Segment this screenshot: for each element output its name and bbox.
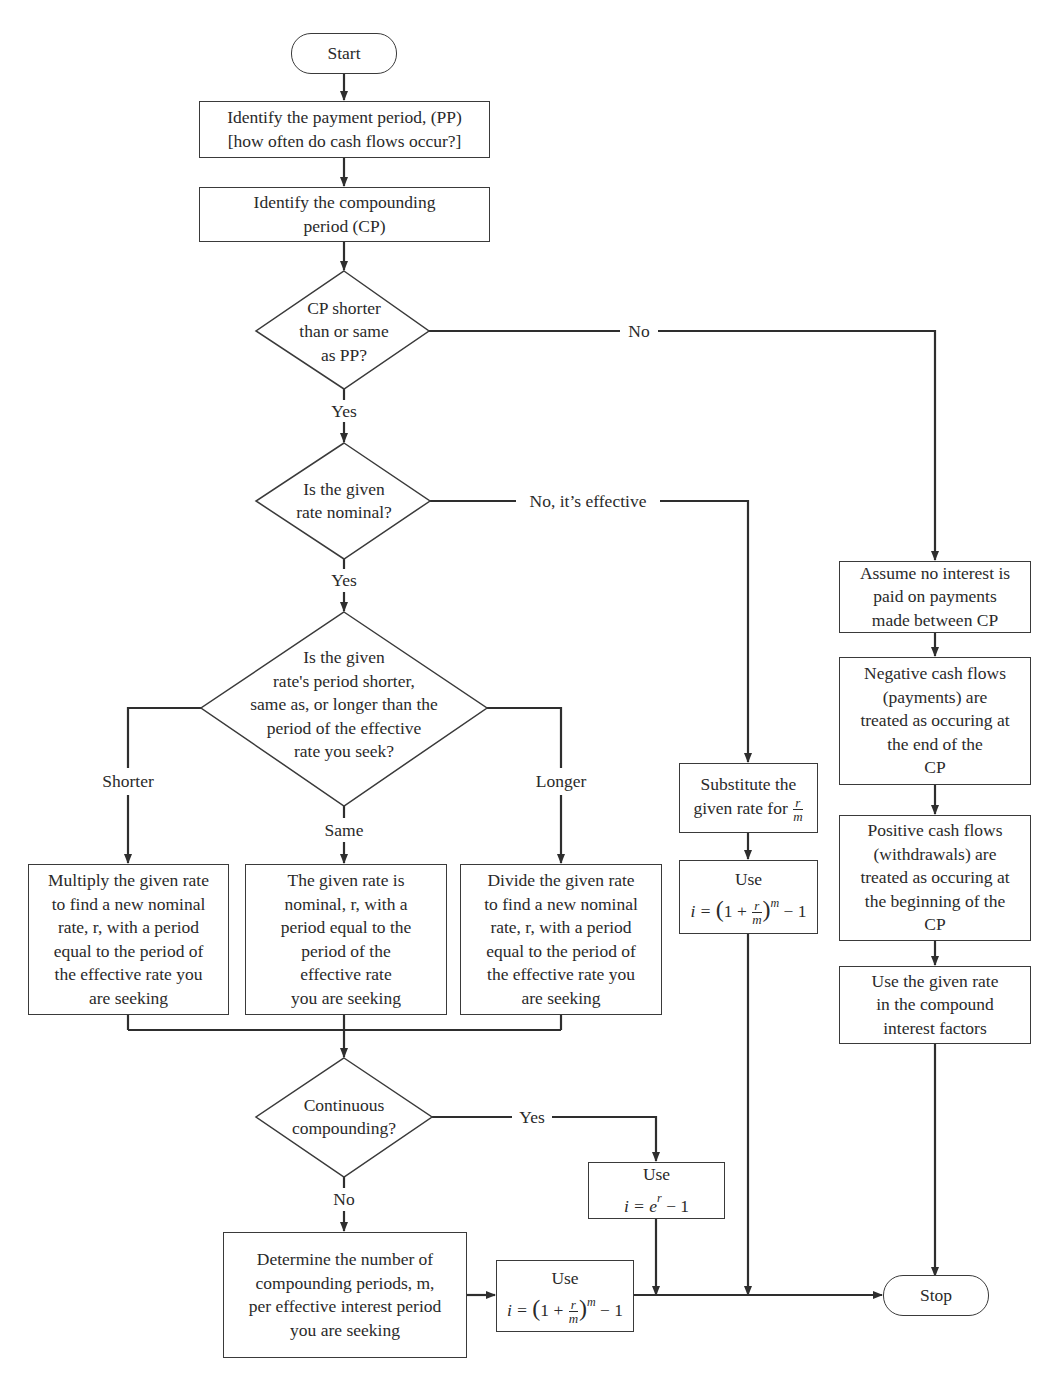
edge-label-nominal-yes: Yes	[328, 570, 359, 590]
text-line: The given rate is	[287, 869, 404, 893]
text-line: compounding periods, m,	[256, 1272, 435, 1296]
step-assume-no-interest: Assume no interest is paid on payments m…	[839, 561, 1031, 633]
text-line: Identify the compounding	[254, 191, 436, 215]
formula-tail: − 1	[779, 901, 806, 921]
decision-cp-vs-pp: CP shorter than or same as PP?	[266, 296, 422, 368]
formula-lhs: i = e	[624, 1196, 657, 1216]
edge-label-nominal-no: No, it’s effective	[527, 491, 650, 511]
text-line: in the compound	[876, 993, 994, 1017]
text-line: Negative cash flows	[864, 662, 1006, 686]
text-line: period of the effective	[267, 717, 422, 741]
text-line: Continuous	[304, 1094, 385, 1118]
decision-rate-nominal: Is the given rate nominal?	[266, 476, 422, 526]
edge-label-same: Same	[322, 820, 367, 840]
text-line: period of the	[301, 940, 390, 964]
text-line: Use the given rate	[872, 970, 999, 994]
text-line: CP	[924, 913, 945, 937]
text-line: rate nominal?	[296, 501, 392, 525]
formula-tail: − 1	[662, 1196, 689, 1216]
text-line: rate, r, with a period	[490, 916, 631, 940]
step-use-effective-formula: Use i = (1 + rm)m − 1	[679, 860, 818, 934]
step-use-continuous-formula: Use i = er − 1	[588, 1162, 725, 1219]
edge-label-longer: Longer	[533, 771, 590, 791]
text-line: Substitute the	[701, 773, 797, 797]
text-line: nominal, r, with a	[284, 893, 407, 917]
step-identify-compounding-period: Identify the compounding period (CP)	[199, 187, 490, 242]
step-positive-cash-flows: Positive cash flows (withdrawals) are tr…	[839, 815, 1031, 941]
text-line: the end of the	[887, 733, 983, 757]
edge-nominal-no	[660, 501, 748, 762]
text-line: CP shorter	[307, 297, 381, 321]
start-terminal[interactable]: Start	[291, 33, 397, 74]
edge-cp-no	[658, 331, 935, 560]
text-line: Is the given	[303, 646, 385, 670]
text-line: Use	[551, 1267, 578, 1291]
fraction-numerator: r	[569, 1298, 578, 1312]
text-line: Divide the given rate	[487, 869, 634, 893]
text-line: to find a new nominal	[484, 893, 638, 917]
stop-terminal[interactable]: Stop	[883, 1275, 989, 1316]
edge-label-cp-no: No	[625, 321, 652, 341]
formula-exponent: m	[587, 1295, 596, 1309]
text-line: period (CP)	[303, 215, 385, 239]
text-line: period equal to the	[281, 916, 412, 940]
text-line: Identify the payment period, (PP)	[227, 106, 462, 130]
text-line: than or same	[299, 320, 388, 344]
text-line: are seeking	[89, 987, 168, 1011]
formula-lhs: i =	[507, 1300, 532, 1320]
text-line: per effective interest period	[249, 1295, 442, 1319]
formula: i = (1 + rm)m − 1	[690, 892, 806, 926]
text-line: to find a new nominal	[52, 893, 206, 917]
formula: i = (1 + rm)m − 1	[507, 1291, 623, 1325]
fraction-denominator: m	[752, 913, 761, 926]
stop-label: Stop	[920, 1284, 952, 1308]
text-line: made between CP	[872, 609, 998, 633]
step-rate-is-nominal: The given rate is nominal, r, with a per…	[245, 864, 447, 1015]
text-line: the effective rate you	[487, 963, 635, 987]
formula-term: 1 +	[724, 901, 751, 921]
decision-continuous-compounding: Continuous compounding?	[266, 1092, 422, 1142]
fraction-r-over-m: rm	[569, 1298, 578, 1325]
step-identify-payment-period: Identify the payment period, (PP) [how o…	[199, 101, 490, 158]
text-line: [how often do cash flows occur?]	[228, 130, 462, 154]
text-line: interest factors	[883, 1017, 987, 1041]
text-line: you are seeking	[290, 1319, 400, 1343]
step-substitute-rate: Substitute the given rate for r m	[679, 763, 818, 833]
text-line: compounding?	[292, 1117, 396, 1141]
text-line: equal to the period of	[486, 940, 636, 964]
fraction-numerator: r	[793, 796, 802, 810]
text-line: are seeking	[521, 987, 600, 1011]
text-line: same as, or longer than the	[250, 693, 438, 717]
step-determine-compounding-periods: Determine the number of compounding peri…	[223, 1232, 467, 1358]
edge-label-continuous-no: No	[330, 1189, 357, 1209]
edge-label-cp-yes: Yes	[328, 401, 359, 421]
step-divide-rate: Divide the given rate to find a new nomi…	[460, 864, 662, 1015]
text-line: you are seeking	[291, 987, 401, 1011]
formula: i = er − 1	[624, 1187, 689, 1219]
step-negative-cash-flows: Negative cash flows (payments) are treat…	[839, 657, 1031, 785]
edge-continuous-yes	[552, 1117, 656, 1161]
start-label: Start	[327, 42, 360, 66]
text-line: treated as occuring at	[860, 709, 1009, 733]
text-line: Determine the number of	[257, 1248, 433, 1272]
step-multiply-rate: Multiply the given rate to find a new no…	[28, 864, 229, 1015]
text-segment: given rate for	[693, 798, 787, 818]
text-line: Positive cash flows	[867, 819, 1002, 843]
formula-exponent: m	[771, 896, 780, 910]
text-line: Use	[735, 868, 762, 892]
text-line: rate, r, with a period	[58, 916, 199, 940]
text-line: paid on payments	[873, 585, 996, 609]
edge-label-shorter: Shorter	[99, 771, 157, 791]
edge-label-continuous-yes: Yes	[516, 1107, 547, 1127]
text-line: (withdrawals) are	[874, 843, 997, 867]
fraction-denominator: m	[793, 810, 802, 823]
step-use-given-rate: Use the given rate in the compound inter…	[839, 966, 1031, 1044]
text-line: treated as occuring at	[860, 866, 1009, 890]
text-line: Use	[643, 1163, 670, 1187]
text-line: CP	[924, 756, 945, 780]
text-line: Is the given	[303, 478, 385, 502]
formula-lhs: i =	[690, 901, 715, 921]
fraction-r-over-m: rm	[752, 899, 761, 926]
fraction-r-over-m: r m	[793, 796, 802, 823]
text-line: effective rate	[300, 963, 391, 987]
